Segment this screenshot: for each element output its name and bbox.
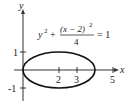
x-axis-arrow-icon: [114, 68, 119, 72]
equation-numerator: (x − 2): [60, 24, 85, 34]
ellipse-plot: x y 2 3 5 1 -1 y 2 + (x − 2) 2 4 = 1: [0, 0, 133, 108]
equation-y-exponent: 2: [44, 27, 48, 35]
y-tick-label-1: 1: [13, 47, 18, 58]
x-tick-label-2: 2: [56, 74, 61, 85]
x-tick-label-3: 3: [74, 74, 79, 85]
equation-label: y 2 + (x − 2) 2 4 = 1: [37, 21, 110, 47]
y-tick-label-neg1: -1: [8, 83, 16, 94]
y-axis-label: y: [18, 0, 24, 11]
equation-plus: +: [50, 29, 56, 40]
x-axis-label: x: [119, 64, 125, 75]
equation-numerator-exponent: 2: [89, 21, 93, 29]
equation-denominator: 4: [74, 37, 79, 47]
equation-y: y: [37, 29, 43, 40]
equation-equals: = 1: [97, 29, 110, 40]
x-tick-label-5: 5: [110, 74, 115, 85]
